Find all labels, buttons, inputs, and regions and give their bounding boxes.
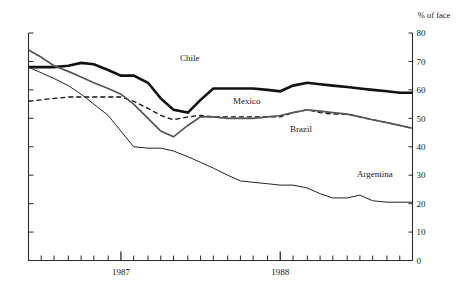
series-line-chile xyxy=(29,63,413,113)
chart-svg: 19871988 01020304050607080 % of face Chi… xyxy=(0,0,472,287)
right-tick-label-0: 0 xyxy=(417,256,422,266)
bottom-axis: 19871988 xyxy=(28,252,413,277)
right-tick-label-10: 10 xyxy=(417,227,427,237)
right-tick-label-70: 70 xyxy=(417,57,427,67)
bottom-axis-ticks xyxy=(29,252,413,261)
right-tick-label-30: 30 xyxy=(417,170,427,180)
debt-price-line-chart: 19871988 01020304050607080 % of face Chi… xyxy=(0,0,472,287)
series-annotation-brazil: Brazil xyxy=(290,124,312,134)
x-axis-label-1987: 1987 xyxy=(112,267,131,277)
right-tick-label-80: 80 xyxy=(417,28,427,38)
right-axis: 01020304050607080 xyxy=(409,28,427,266)
x-axis-labels: 19871988 xyxy=(112,267,290,277)
right-tick-label-50: 50 xyxy=(417,114,427,124)
series-paths xyxy=(29,50,413,202)
x-axis-label-1988: 1988 xyxy=(271,267,290,277)
right-axis-ticks xyxy=(409,33,413,261)
series-annotation-argentina: Argentina xyxy=(357,169,393,179)
series-line-mexico xyxy=(29,97,413,128)
right-tick-label-60: 60 xyxy=(417,85,427,95)
series-annotation-chile: Chile xyxy=(180,53,200,63)
y-axis-title: % of face xyxy=(418,10,451,20)
series-annotations: ChileMexicoBrazilArgentina xyxy=(180,53,393,179)
right-axis-tick-labels: 01020304050607080 xyxy=(417,28,427,266)
right-tick-label-40: 40 xyxy=(417,142,427,152)
series-annotation-mexico: Mexico xyxy=(233,96,261,106)
right-tick-label-20: 20 xyxy=(417,199,427,209)
